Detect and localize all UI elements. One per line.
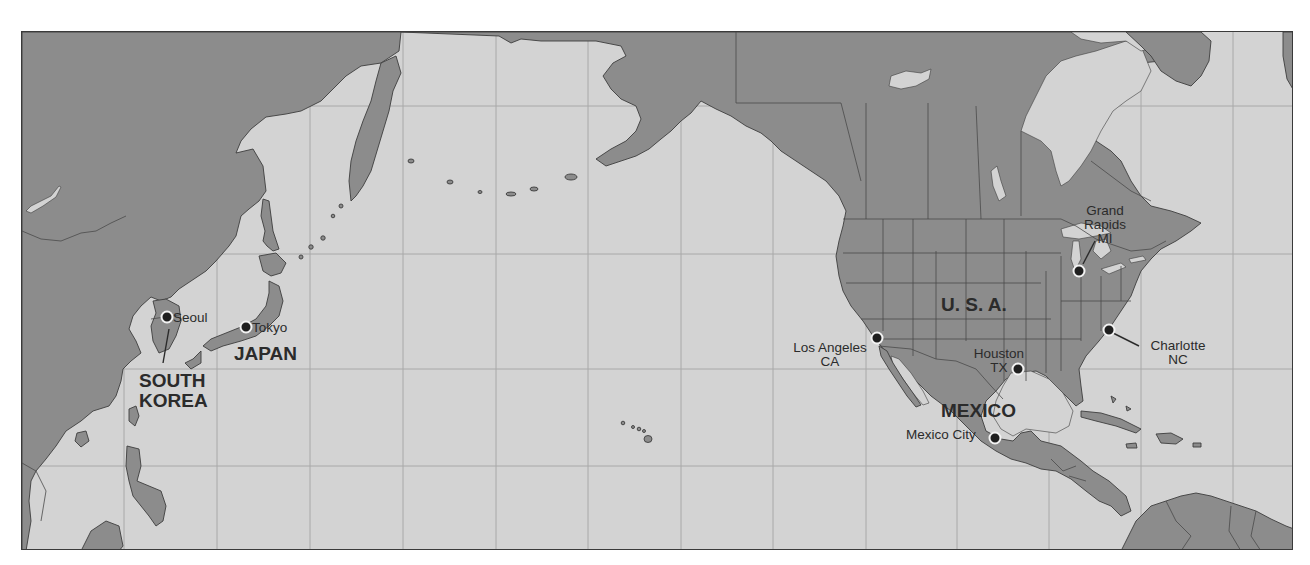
landmass-borneo [81,521,123,550]
landmass-jamaica [1126,443,1137,448]
landmass-kamchatka [349,56,401,201]
country-label-mexico: MEXICO [941,401,1016,421]
city-label-los-angeles-name: Los Angeles [785,341,875,355]
city-label-charlotte-state: NC [1138,353,1218,367]
landmass-taiwan [129,406,139,426]
city-label-houston-name: Houston [972,347,1026,361]
city-label-grand-rapids: Grand Rapids MI [1075,204,1135,247]
city-label-seoul: Seoul [173,311,208,325]
city-label-los-angeles-state: CA [785,355,875,369]
city-label-houston-state: TX [972,361,1026,375]
map-frame: Seoul Tokyo Los Angeles CA Houston TX Me… [21,31,1293,550]
city-label-charlotte: Charlotte NC [1138,339,1218,367]
landmass-sakhalin [261,199,279,251]
city-marker-seoul[interactable] [161,311,174,324]
landmass-puerto-rico [1193,443,1201,447]
landmass-greenland [1283,32,1293,91]
city-marker-tokyo[interactable] [240,321,253,334]
landmass-hainan [75,431,89,447]
city-label-grand-rapids-l1: Grand [1075,204,1135,218]
landmass-hispaniola [1156,433,1183,444]
city-label-tokyo: Tokyo [252,321,287,335]
city-label-charlotte-name: Charlotte [1138,339,1218,353]
leader-line-charlotte [1113,333,1139,346]
hawaiian-islands [621,421,652,442]
country-label-usa: U. S. A. [941,295,1007,315]
landmass-asia [22,32,401,550]
aleutian-islands [408,159,577,196]
city-marker-charlotte[interactable] [1103,324,1116,337]
kuril-islands [299,204,343,259]
city-marker-grand-rapids[interactable] [1073,265,1086,278]
landmass-cuba [1081,411,1141,433]
city-label-houston: Houston TX [972,347,1026,375]
map-canvas [22,32,1293,550]
city-marker-mexico-city[interactable] [989,432,1002,445]
city-label-los-angeles: Los Angeles CA [785,341,875,369]
city-label-grand-rapids-l2: Rapids [1075,218,1135,232]
city-label-grand-rapids-l3: MI [1075,232,1135,246]
landmass-south-america [1121,493,1293,550]
country-label-south-korea: SOUTH KOREA [139,371,208,411]
landmass-bahamas [1111,396,1131,411]
landmass-philippines [126,446,166,526]
country-label-japan: JAPAN [234,344,297,364]
city-label-mexico-city: Mexico City [906,428,976,442]
country-label-south-korea-l2: KOREA [139,391,208,411]
country-label-south-korea-l1: SOUTH [139,371,208,391]
